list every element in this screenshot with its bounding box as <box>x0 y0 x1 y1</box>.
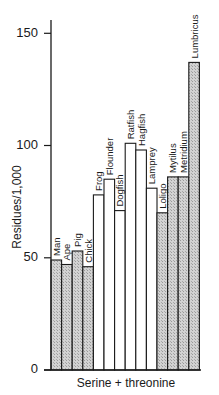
chart-canvas: ManApePigChickFrogFlounderDogfishRatfish… <box>0 0 219 395</box>
bar-label-mytilus: Mytilus <box>167 143 178 173</box>
y-axis-label: Residues/1,000 <box>10 162 24 252</box>
bar-label-man: Man <box>51 238 62 256</box>
y-tick-label-100: 100 <box>8 137 38 152</box>
y-tick-label-50: 50 <box>8 249 38 264</box>
bar-man <box>51 260 62 370</box>
bars-group <box>51 62 199 370</box>
y-tick-label-0: 0 <box>8 361 38 376</box>
bar-pig <box>72 251 83 370</box>
y-ticks-group <box>44 33 51 370</box>
bar-label-frog: Frog <box>93 171 104 191</box>
bar-chart: ManApePigChickFrogFlounderDogfishRatfish… <box>0 0 219 395</box>
bar-label-dogfish: Dogfish <box>114 174 125 206</box>
bar-label-flounder: Flounder <box>104 138 115 176</box>
bar-chick <box>83 267 94 370</box>
bar-metridium <box>178 177 189 370</box>
bar-label-chick: Chick <box>83 239 94 263</box>
bar-flounder <box>104 179 115 370</box>
bar-lumbricus <box>189 62 200 370</box>
bar-ratfish <box>125 143 136 370</box>
bar-loligo <box>157 213 168 370</box>
bar-mytilus <box>168 177 179 370</box>
bar-label-loligo: Loligo <box>157 183 168 208</box>
bar-dogfish <box>115 211 126 370</box>
bar-lamprey <box>146 188 157 370</box>
bar-label-lamprey: Lamprey <box>146 147 157 184</box>
bar-label-ape: Ape <box>61 244 72 261</box>
bar-frog <box>93 195 104 370</box>
bar-ape <box>62 265 73 371</box>
bar-label-ratfish: Ratfish <box>125 110 136 140</box>
bar-label-pig: Pig <box>72 233 83 247</box>
bar-label-lumbricus: Lumbricus <box>189 14 200 58</box>
bar-hagfish <box>136 150 147 370</box>
y-tick-label-150: 150 <box>8 25 38 40</box>
bar-label-metridium: Metridium <box>178 131 189 173</box>
x-axis-label: Serine + threonine <box>51 376 201 390</box>
bar-label-hagfish: Hagfish <box>136 114 147 146</box>
